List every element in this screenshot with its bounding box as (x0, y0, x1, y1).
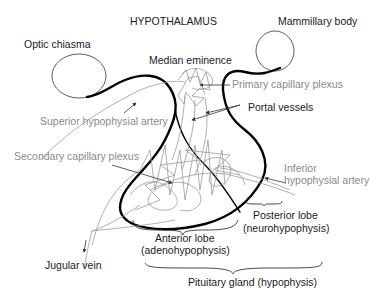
posterior-lobe-brace (246, 201, 282, 206)
secondary-plexus-pointer (112, 165, 172, 183)
secondary-capillary-plexus-label: Secondary capillary plexus (14, 150, 139, 162)
inferior-hypophysial-artery-label-2: hypophysial artery (284, 174, 370, 186)
anterior-lobe-label-1: Anterior lobe (155, 232, 215, 244)
median-eminence-label: Median eminence (149, 54, 232, 66)
mammillary-body-shape (256, 31, 294, 71)
posterior-lobe-label-2: (neurohypophysis) (243, 222, 329, 234)
pituitary-outline (87, 68, 280, 229)
pituitary-gland-brace (145, 262, 322, 274)
superior-hypophysial-artery-label: Superior hypophysial artery (40, 115, 169, 127)
jugular-vein-label: Jugular vein (45, 259, 102, 271)
inferior-artery-pointer (265, 178, 286, 183)
pituitary-gland-label: Pituitary gland (hypophysis) (188, 276, 317, 288)
superior-artery-pointer (124, 103, 136, 113)
jugular-vein-pointer (84, 240, 86, 252)
inferior-hypophysial-artery-label-1: Inferior (284, 162, 317, 174)
optic-chiasma-shape (52, 54, 106, 98)
hypothalamus-title: HYPOTHALAMUS (130, 15, 217, 27)
anterior-lobe-label-2: (adenohypophysis) (141, 244, 230, 256)
posterior-lobe-label-1: Posterior lobe (253, 209, 318, 221)
primary-capillary-plexus-label: Primary capillary plexus (232, 78, 343, 90)
portal-vessels-label: Portal vessels (248, 101, 313, 113)
optic-chiasma-label: Optic chiasma (24, 38, 91, 50)
pituitary-portal-diagram: HYPOTHALAMUS Mammillary body Optic chias… (0, 0, 377, 301)
mammillary-body-label: Mammillary body (278, 15, 358, 27)
